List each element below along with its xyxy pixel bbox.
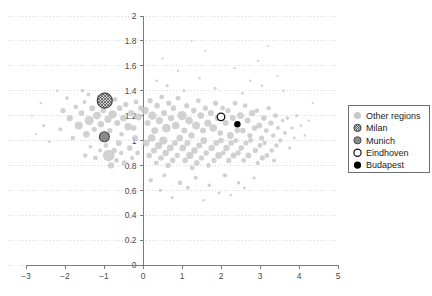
- data-point: [186, 186, 190, 190]
- x-tick-label-1: 1: [180, 271, 185, 281]
- data-point: [107, 128, 112, 133]
- data-point: [253, 176, 256, 179]
- data-point: [190, 165, 195, 170]
- data-point: [282, 90, 284, 92]
- x-tick-label-2: 2: [219, 271, 224, 281]
- data-point: [229, 194, 232, 197]
- data-point: [86, 92, 90, 96]
- data-point: [194, 176, 198, 180]
- data-point: [175, 153, 180, 158]
- data-point: [204, 50, 206, 52]
- data-point: [235, 128, 241, 134]
- data-point: [116, 140, 122, 146]
- data-point: [83, 131, 90, 138]
- data-point: [202, 199, 205, 202]
- data-point: [81, 89, 85, 93]
- scatter-chart: 00.20.40.60.811.21.41.61.82 −3−2−1012345…: [0, 0, 432, 296]
- data-point: [258, 143, 263, 148]
- data-point: [249, 110, 255, 116]
- y-tick-label-0.6: 0.6: [125, 186, 137, 196]
- data-point: [227, 132, 234, 139]
- data-point: [177, 111, 186, 120]
- data-point: [300, 124, 303, 127]
- data-point: [111, 148, 117, 154]
- data-point: [124, 123, 132, 131]
- data-point: [198, 77, 200, 79]
- legend-marker-hatched-circle: [354, 124, 361, 131]
- data-point: [148, 111, 156, 119]
- data-point: [293, 137, 296, 140]
- data-point: [230, 115, 236, 121]
- data-point: [199, 155, 204, 160]
- y-tick-label-1.8: 1.8: [125, 36, 137, 46]
- legend-label: Budapest: [366, 160, 405, 170]
- data-point: [259, 135, 264, 140]
- data-point: [261, 115, 267, 121]
- data-point: [278, 138, 282, 142]
- data-point: [155, 79, 158, 82]
- data-point: [228, 140, 234, 146]
- data-point: [276, 126, 280, 130]
- data-point: [154, 103, 160, 109]
- data-point: [35, 133, 37, 135]
- data-point: [249, 80, 251, 82]
- data-point: [203, 106, 208, 111]
- data-point: [108, 110, 116, 118]
- data-point: [83, 153, 87, 157]
- data-point: [162, 124, 171, 133]
- data-point: [188, 132, 194, 138]
- data-point: [162, 150, 168, 156]
- chart-legend: Other regionsMilanMunichEindhovenBudapes…: [348, 105, 429, 172]
- data-point: [79, 110, 85, 116]
- data-point: [274, 143, 278, 147]
- x-tick-label-4: 4: [297, 271, 302, 281]
- data-point: [171, 105, 177, 111]
- data-point: [170, 158, 176, 164]
- data-point: [120, 115, 127, 122]
- data-point: [104, 143, 109, 148]
- data-point: [308, 119, 310, 121]
- x-tick-label--1: −1: [99, 271, 109, 281]
- legend-label: Munich: [366, 136, 395, 146]
- data-point: [159, 189, 162, 192]
- data-point: [183, 89, 186, 92]
- data-point: [165, 163, 170, 168]
- data-point: [217, 130, 223, 136]
- data-point: [135, 151, 140, 156]
- data-point: [271, 133, 275, 137]
- data-point: [243, 103, 248, 108]
- y-tick-label-0.4: 0.4: [125, 210, 137, 220]
- legend-marker-filled-circle-light-gray: [354, 112, 361, 119]
- legend-label: Other regions: [366, 111, 421, 121]
- data-point: [245, 118, 251, 124]
- data-point: [290, 126, 294, 130]
- data-point: [241, 158, 246, 163]
- data-point: [234, 121, 240, 127]
- data-point: [71, 136, 75, 140]
- data-point: [143, 140, 150, 147]
- data-point: [127, 145, 133, 151]
- x-tick-label--3: −3: [21, 271, 31, 281]
- data-point: [194, 160, 200, 166]
- data-point: [214, 87, 217, 90]
- data-point: [132, 135, 138, 141]
- data-point: [185, 117, 193, 125]
- y-tick-label-1.4: 1.4: [125, 86, 137, 96]
- data-point: [243, 186, 246, 189]
- legend-item-milan[interactable]: Milan: [354, 123, 388, 133]
- data-point: [260, 155, 265, 160]
- data-point: [238, 145, 244, 151]
- data-point: [182, 158, 188, 164]
- data-point: [97, 93, 112, 108]
- data-point: [148, 134, 156, 142]
- data-point: [223, 120, 229, 126]
- data-point: [248, 138, 253, 143]
- x-tick-label-5: 5: [336, 271, 341, 281]
- data-point: [213, 101, 218, 106]
- data-point: [209, 124, 217, 132]
- data-point: [295, 114, 298, 117]
- data-point: [265, 153, 270, 158]
- data-point: [135, 113, 142, 120]
- x-tick-label-3: 3: [258, 271, 263, 281]
- data-point: [236, 150, 241, 155]
